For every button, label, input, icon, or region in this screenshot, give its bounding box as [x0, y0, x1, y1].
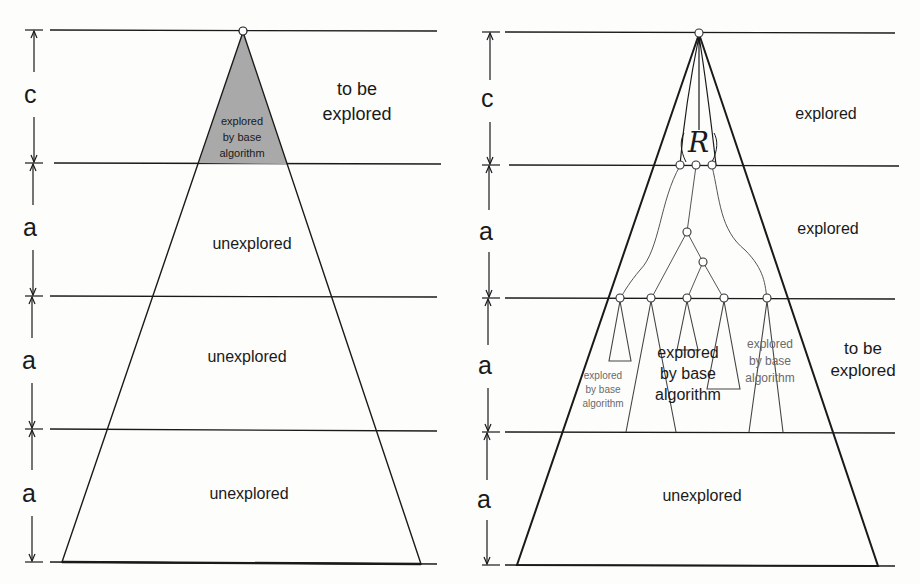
subtree-small-label: by base — [585, 384, 620, 395]
shaded-label: by base — [223, 131, 262, 143]
to-be-explored-label: explored — [322, 104, 391, 124]
to-be-explored-label: to be — [844, 339, 882, 358]
subtree-right-label: algorithm — [745, 371, 794, 385]
subtree-right-label: explored — [747, 337, 793, 351]
dim-label-c: c — [24, 80, 37, 108]
unexplored-label: unexplored — [662, 487, 741, 504]
shaded-label: algorithm — [219, 147, 264, 159]
subtree-center-label: by base — [660, 365, 716, 382]
root-node — [695, 29, 703, 37]
to-be-explored-label: to be — [337, 79, 377, 99]
explored-paths — [620, 166, 767, 299]
diagram-canvas: c a a a to be explored explored by base … — [0, 0, 920, 584]
dim-label-a: a — [477, 485, 491, 513]
unexplored-label: unexplored — [207, 348, 286, 365]
dim-label-a: a — [479, 217, 493, 245]
subtree-small-label: algorithm — [582, 398, 623, 409]
subtree-small-label: explored — [584, 370, 622, 381]
unexplored-label: unexplored — [209, 485, 288, 502]
dim-label-c: c — [481, 84, 494, 112]
dim-label-a: a — [478, 351, 492, 379]
to-be-explored-label: explored — [830, 361, 895, 380]
level-line-2 — [505, 298, 895, 299]
root-region-symbol: R — [687, 126, 709, 159]
root-node — [239, 27, 247, 35]
dim-label-a: a — [22, 479, 36, 507]
level-line-2 — [50, 296, 437, 297]
explored-label: explored — [795, 105, 856, 122]
dim-label-a: a — [22, 346, 36, 374]
dim-label-a: a — [23, 213, 37, 241]
subtree-center-label: algorithm — [655, 386, 721, 403]
unexplored-label: unexplored — [212, 235, 291, 252]
level-line-1 — [509, 165, 899, 166]
subtree-inner — [677, 301, 698, 350]
explored-label: explored — [797, 220, 858, 237]
shaded-explored-region — [199, 32, 287, 164]
shaded-label: explored — [221, 115, 263, 127]
subtree-small-left — [609, 301, 631, 361]
subtree-right-label: by base — [749, 354, 791, 368]
subtree-center-label: explored — [657, 344, 718, 361]
